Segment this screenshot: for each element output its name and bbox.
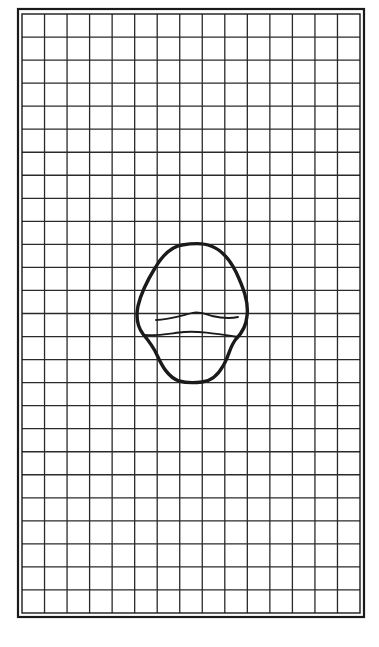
background: [0, 0, 379, 647]
grid-figure: [0, 0, 379, 647]
